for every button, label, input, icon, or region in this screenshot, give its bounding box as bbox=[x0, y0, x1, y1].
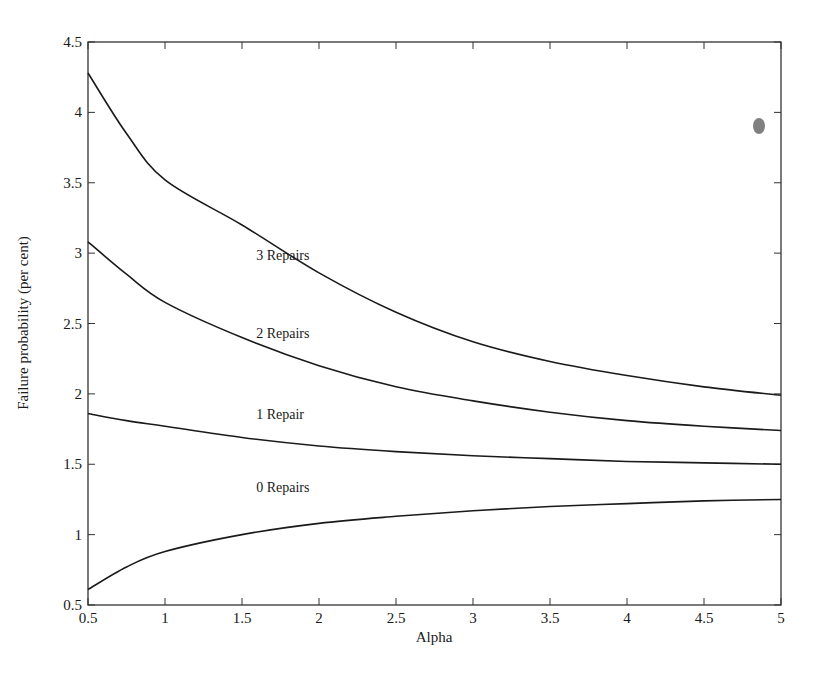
curves bbox=[88, 73, 781, 590]
x-tick-label: 1 bbox=[161, 610, 169, 626]
y-tick-label: 4.5 bbox=[63, 34, 82, 50]
x-tick-label: 2.5 bbox=[387, 610, 406, 626]
x-axis-title: Alpha bbox=[416, 629, 453, 645]
x-tick-label: 4.5 bbox=[695, 610, 714, 626]
curve-2-repairs bbox=[88, 242, 781, 431]
plot-frame bbox=[88, 42, 781, 605]
y-tick-label: 1 bbox=[75, 527, 83, 543]
scan-smudge bbox=[753, 118, 765, 134]
y-tick-label: 3 bbox=[75, 245, 83, 261]
y-tick-label: 0.5 bbox=[63, 597, 82, 613]
label-1-repair: 1 Repair bbox=[256, 407, 304, 422]
y-tick-label: 4 bbox=[75, 104, 83, 120]
x-tick-label: 3 bbox=[469, 610, 477, 626]
y-tick-label: 2.5 bbox=[63, 316, 82, 332]
label-2-repairs: 2 Repairs bbox=[256, 326, 309, 341]
y-tick-label: 3.5 bbox=[63, 175, 82, 191]
curve-3-repairs bbox=[88, 73, 781, 395]
line-chart: 0.511.522.533.544.55 0.511.522.533.544.5… bbox=[0, 0, 823, 675]
curve-1-repair bbox=[88, 414, 781, 465]
y-tick-label: 1.5 bbox=[63, 456, 82, 472]
y-axis-title: Failure probability (per cent) bbox=[15, 236, 32, 410]
x-tick-label: 1.5 bbox=[233, 610, 252, 626]
curve-labels: 3 Repairs2 Repairs1 Repair0 Repairs bbox=[256, 248, 309, 495]
label-3-repairs: 3 Repairs bbox=[256, 248, 309, 263]
x-axis-ticks: 0.511.522.533.544.55 bbox=[79, 42, 785, 626]
plot-area-border bbox=[88, 42, 781, 605]
x-tick-label: 4 bbox=[623, 610, 631, 626]
x-tick-label: 5 bbox=[777, 610, 785, 626]
x-tick-label: 3.5 bbox=[541, 610, 560, 626]
curve-0-repairs bbox=[88, 499, 781, 589]
label-0-repairs: 0 Repairs bbox=[256, 480, 309, 495]
x-tick-label: 2 bbox=[315, 610, 323, 626]
y-tick-label: 2 bbox=[75, 386, 83, 402]
